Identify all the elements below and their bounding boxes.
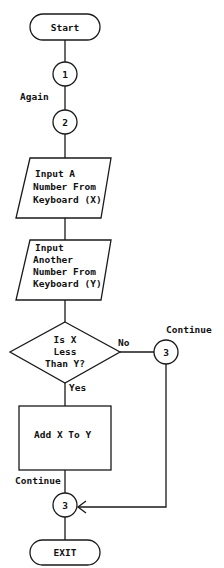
input-y-parallelogram: Input Another Number From Keyboard (Y) (16, 240, 111, 300)
input-y-line-2: Another (33, 254, 73, 265)
flowchart-canvas: Start 1 Again 2 Input A Number From Keyb… (0, 0, 224, 568)
decision-line-2: Less (54, 346, 77, 357)
input-y-line-4: Keyboard (Y) (33, 278, 102, 289)
input-x-line-1: Input A (35, 168, 75, 179)
start-terminal: Start (30, 14, 100, 40)
decision-diamond: Is X Less Than Y? (10, 322, 120, 383)
connector-2-label: 2 (62, 117, 68, 128)
connector-3-bottom: 3 (53, 493, 77, 517)
exit-label: EXIT (54, 547, 77, 558)
continue-label-bottom: Continue (15, 475, 61, 486)
process-add-box: Add X To Y (19, 406, 111, 470)
connector-3-right-label: 3 (163, 347, 169, 358)
input-y-line-3: Number From (33, 266, 96, 277)
decision-line-1: Is X (54, 334, 77, 345)
connector-2: 2 (53, 110, 77, 134)
connector-1-label: 1 (62, 69, 68, 80)
start-label: Start (51, 22, 80, 33)
no-label: No (118, 337, 130, 348)
input-x-line-2: Number From (33, 181, 96, 192)
input-y-line-1: Input (35, 242, 64, 253)
exit-terminal: EXIT (30, 540, 100, 565)
continue-label-right: Continue (166, 324, 212, 335)
decision-line-3: Than Y? (45, 358, 85, 369)
process-label: Add X To Y (34, 429, 91, 440)
input-x-parallelogram: Input A Number From Keyboard (X) (16, 158, 111, 218)
connector-1: 1 (53, 62, 77, 86)
again-label: Again (20, 91, 49, 102)
yes-label: Yes (69, 382, 86, 393)
connector-3-right: 3 (154, 340, 178, 364)
input-x-line-3: Keyboard (X) (33, 194, 102, 205)
connector-3-bottom-label: 3 (62, 500, 68, 511)
